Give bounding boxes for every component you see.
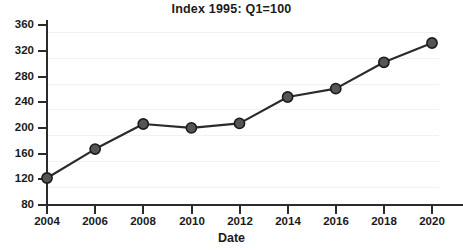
series-layer [0, 0, 463, 250]
series-markers [42, 38, 437, 183]
data-point [234, 118, 244, 128]
series-line [47, 43, 432, 178]
data-point [186, 123, 196, 133]
data-point [283, 92, 293, 102]
data-point [331, 84, 341, 94]
data-point [379, 57, 389, 67]
data-point [42, 173, 52, 183]
data-point [427, 38, 437, 48]
data-point [90, 144, 100, 154]
data-point [138, 119, 148, 129]
line-chart: Index 1995: Q1=100 80 120 160 200 240 28… [0, 0, 463, 250]
